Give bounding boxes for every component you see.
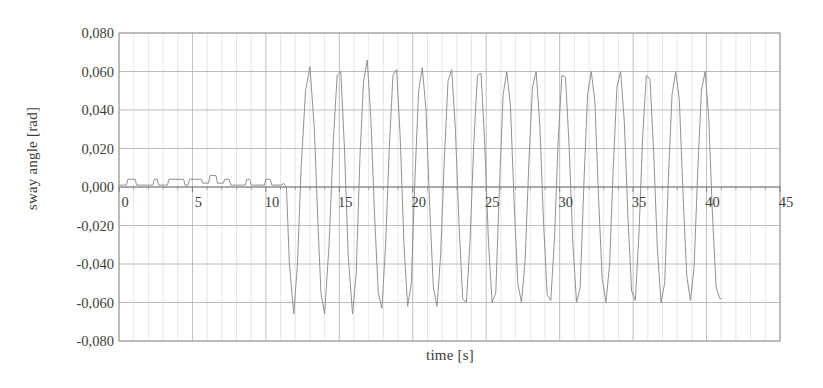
x-axis-tick-labels: 051015202530354045 [0,0,823,388]
y-axis-title: sway angle [rad] [24,64,41,254]
x-tick-label: 45 [779,194,794,211]
x-tick-label: 15 [338,194,353,211]
x-tick-label: 30 [558,194,573,211]
x-tick-label: 40 [705,194,720,211]
x-tick-label: 20 [412,194,427,211]
x-tick-label: 5 [195,194,202,211]
chart-container: 0,0800,0600,0400,0200,000-0,020-0,040-0,… [0,0,823,388]
x-tick-label: 25 [485,194,500,211]
x-tick-label: 10 [265,194,280,211]
x-tick-label: 35 [632,194,647,211]
x-tick-label: 0 [121,194,128,211]
x-axis-title: time [s] [330,347,570,364]
